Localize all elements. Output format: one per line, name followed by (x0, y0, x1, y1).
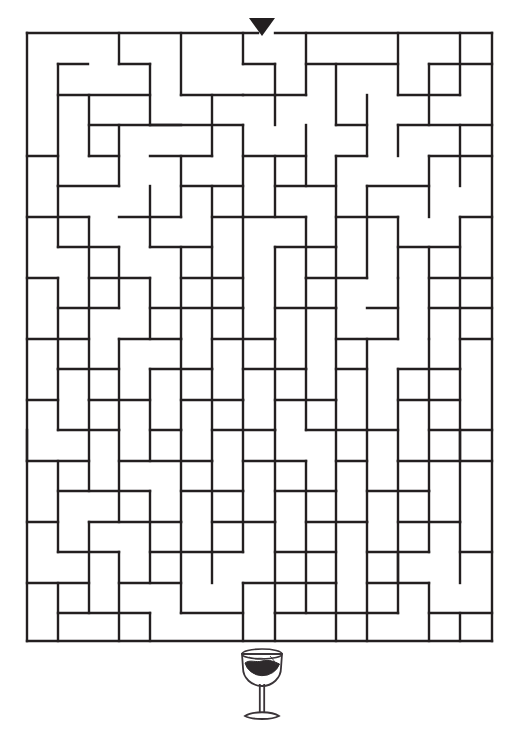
wine-liquid-icon (245, 660, 280, 675)
maze-walls (27, 33, 492, 641)
maze-page (0, 0, 517, 751)
wine-glass-base-icon (245, 712, 279, 719)
goal-wine-glass (242, 649, 282, 719)
maze-figure (0, 0, 517, 751)
maze-canvas (0, 0, 517, 751)
wine-glass-stem-icon (260, 684, 264, 712)
